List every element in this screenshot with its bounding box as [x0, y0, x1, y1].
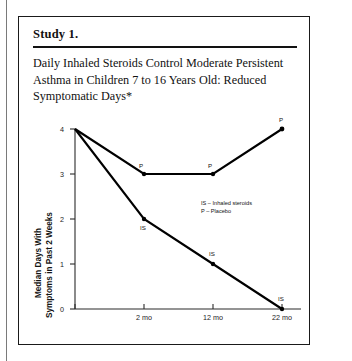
- chart-container: Median Days With Symptoms in Past 2 Week…: [19, 113, 311, 338]
- legend-entry-p: P – Placebo: [201, 208, 231, 214]
- study-label: Study 1.: [33, 27, 297, 42]
- series-is-label-12mo: IS: [209, 250, 215, 257]
- y-tick-label-0: 0: [60, 305, 64, 314]
- series-is-label-2mo: IS: [140, 224, 146, 231]
- series-is-point-12mo: [211, 262, 215, 266]
- y-axis-ticks: 0 1 2 3 4: [60, 125, 75, 314]
- series-placebo-label-2mo: P: [139, 162, 143, 169]
- x-tick-label-12mo: 12 mo: [203, 313, 223, 322]
- study-header: Study 1.: [33, 27, 297, 48]
- chart-legend: IS – Inhaled steroids P – Placebo: [201, 200, 252, 214]
- series-placebo-label-22mo: P: [279, 116, 283, 123]
- series-placebo-point-12mo: [211, 172, 215, 176]
- y-tick-label-1: 1: [60, 260, 64, 269]
- x-axis-ticks: 2 mo 12 mo 22 mo: [75, 304, 292, 322]
- series-inhaled-steroids: IS IS IS: [75, 129, 284, 311]
- series-is-label-22mo: IS: [278, 295, 284, 302]
- series-placebo-line: [75, 129, 282, 174]
- series-is-point-2mo: [142, 217, 146, 221]
- line-chart: Median Days With Symptoms in Past 2 Week…: [19, 113, 311, 338]
- series-is-line: [75, 129, 282, 309]
- y-tick-label-2: 2: [60, 215, 64, 224]
- series-placebo: P P P: [75, 116, 284, 176]
- series-placebo-point-22mo: [280, 127, 285, 132]
- x-tick-label-22mo: 22 mo: [272, 313, 292, 322]
- study-box: Study 1. Daily Inhaled Steroids Control …: [18, 16, 310, 345]
- x-tick-label-2mo: 2 mo: [136, 313, 152, 322]
- series-is-point-22mo: [280, 307, 284, 311]
- series-placebo-label-12mo: P: [208, 162, 212, 169]
- header-divider: [33, 46, 297, 48]
- y-axis-label: Median Days With Symptoms in Past 2 Week…: [34, 212, 54, 318]
- legend-entry-is: IS – Inhaled steroids: [201, 200, 252, 206]
- series-placebo-point-2mo: [142, 172, 146, 176]
- page-edge-line: [6, 0, 7, 361]
- y-axis-label-line2: Symptoms in Past 2 Weeks: [45, 212, 54, 318]
- y-tick-label-4: 4: [60, 125, 64, 134]
- study-title: Daily Inhaled Steroids Control Moderate …: [33, 55, 301, 105]
- y-tick-label-3: 3: [60, 170, 64, 179]
- y-axis-label-line1: Median Days With: [34, 228, 43, 298]
